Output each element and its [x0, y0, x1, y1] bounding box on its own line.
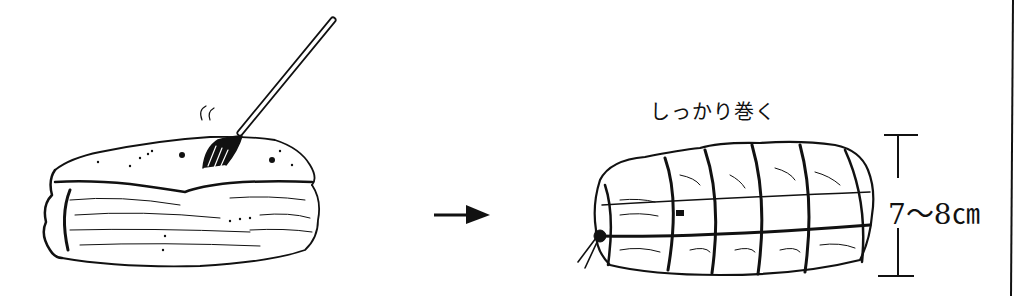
frame-border	[1011, 0, 1013, 296]
illustration-canvas	[0, 0, 1022, 296]
tied-meat-roll-illustration	[578, 142, 873, 275]
caption-roll-tightly: しっかり巻く	[650, 96, 776, 125]
dimension-label: 7～8㎝	[888, 192, 980, 232]
arrow-icon	[434, 205, 490, 224]
meat-with-fork-illustration	[44, 20, 333, 266]
